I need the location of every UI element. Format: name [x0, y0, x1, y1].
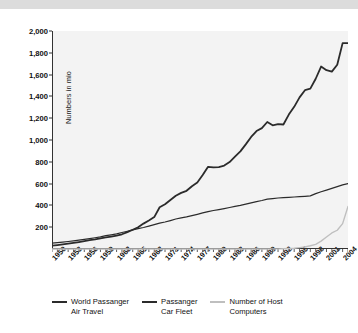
y-tick-label: 400 — [35, 201, 48, 210]
y-tick-label: 1,200 — [29, 114, 48, 123]
plot-area: Numbers in mio 2004006008001,0001,2001,4… — [52, 31, 348, 249]
y-tick-label: 200 — [35, 223, 48, 232]
top-decorative-band — [0, 0, 358, 9]
y-tick-label: 1,600 — [29, 70, 48, 79]
chart-lines — [52, 31, 348, 255]
legend-label: World Passanger Air Travel — [71, 297, 129, 316]
y-tick-label: 600 — [35, 179, 48, 188]
legend-item[interactable]: Number of Host Computers — [210, 297, 282, 316]
y-tick-label: 1,000 — [29, 136, 48, 145]
legend-swatch-icon — [142, 301, 157, 303]
legend-swatch-icon — [52, 301, 67, 303]
legend-item[interactable]: Passanger Car Fleet — [142, 297, 197, 316]
legend-swatch-icon — [210, 301, 225, 303]
series-line-1 — [52, 184, 348, 244]
series-line-2 — [52, 206, 348, 249]
y-tick-label: 800 — [35, 157, 48, 166]
y-tick-label: 2,000 — [29, 27, 48, 36]
legend-label: Passanger Car Fleet — [161, 297, 197, 316]
chart-figure: Numbers in mio 2004006008001,0001,2001,4… — [0, 9, 358, 333]
chart-legend: World Passanger Air TravelPassanger Car … — [52, 297, 352, 316]
legend-item[interactable]: World Passanger Air Travel — [52, 297, 129, 316]
series-line-0 — [52, 43, 348, 246]
legend-label: Number of Host Computers — [229, 297, 282, 316]
y-tick-label: 1,800 — [29, 48, 48, 57]
y-tick-label: 1,400 — [29, 92, 48, 101]
